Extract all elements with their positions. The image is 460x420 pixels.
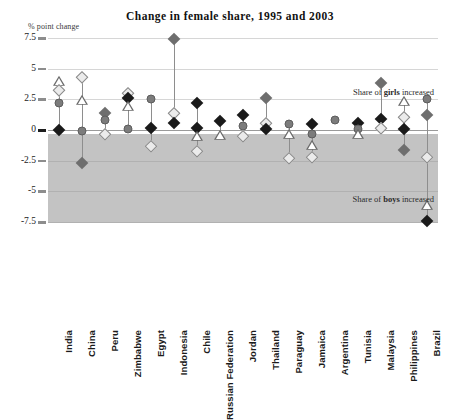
marker-gray-circle xyxy=(124,124,133,133)
marker-dark-diamond xyxy=(237,109,250,122)
triangle-fill xyxy=(193,133,201,140)
y-tick-label: 0 xyxy=(2,125,36,135)
y-tick-label: 7.5 xyxy=(2,33,36,43)
y-tick-mark xyxy=(38,190,46,193)
annotation-girls-suffix: increased xyxy=(400,87,434,97)
marker-gray-circle xyxy=(284,119,293,128)
marker-gray-circle xyxy=(147,95,156,104)
triangle-fill xyxy=(124,103,132,110)
y-tick-label: 5 xyxy=(2,64,36,74)
y-axis-caption: % point change xyxy=(28,22,79,31)
negative-shaded-region xyxy=(48,134,438,222)
triangle-fill xyxy=(308,142,316,149)
plot-area: Share of girls increased Share of boys i… xyxy=(48,38,438,222)
triangle-fill xyxy=(400,98,408,105)
y-tick-mark xyxy=(38,129,46,132)
marker-gray-diamond xyxy=(168,33,181,46)
marker-dark-diamond xyxy=(168,116,181,129)
x-axis-label-paraguay: Paraguay xyxy=(293,330,304,374)
marker-light-diamond xyxy=(398,110,410,122)
x-axis-label-peru: Peru xyxy=(109,330,120,352)
gridline-neg7-5 xyxy=(48,222,438,223)
y-tick-mark xyxy=(38,221,46,224)
x-axis-label-tunisia: Tunisia xyxy=(362,330,373,363)
gridline-neg2-5 xyxy=(48,161,438,162)
x-axis-label-malaysia: Malaysia xyxy=(385,330,396,370)
x-axis-labels: IndiaChinaPeruZimbabweEgyptIndonesiaChil… xyxy=(48,226,438,334)
marker-gray-diamond xyxy=(420,109,433,122)
marker-light-diamond xyxy=(76,71,88,83)
triangle-fill xyxy=(285,131,293,138)
y-tick-mark xyxy=(38,160,46,163)
page-title: Change in female share, 1995 and 2003 xyxy=(0,10,460,22)
x-axis-label-indonesia: Indonesia xyxy=(178,330,189,375)
x-axis-label-philippines: Philippines xyxy=(408,330,419,382)
annotation-boys-prefix: Share of xyxy=(353,194,384,204)
x-axis-label-argentina: Argentina xyxy=(339,330,350,375)
y-tick-mark xyxy=(38,37,46,40)
connector-line xyxy=(82,77,83,163)
gridline-2neg5 xyxy=(48,99,438,100)
x-axis-label-jordan: Jordan xyxy=(247,330,258,362)
marker-gray-circle xyxy=(330,116,339,125)
annotation-boys-suffix: increased xyxy=(400,194,434,204)
x-axis-label-egypt: Egypt xyxy=(155,330,166,357)
triangle-fill xyxy=(78,97,86,104)
x-axis-label-thailand: Thailand xyxy=(270,330,281,370)
marker-gray-circle xyxy=(101,116,110,125)
annotation-boys-increased: Share of boys increased xyxy=(353,194,434,204)
gridline-neg5 xyxy=(48,191,438,192)
y-tick-mark xyxy=(38,98,46,101)
annotation-girls-bold: girls xyxy=(384,87,400,97)
marker-gray-circle xyxy=(55,99,64,108)
x-axis-label-zimbabwe: Zimbabwe xyxy=(132,330,143,377)
gridline-7neg5 xyxy=(48,38,438,39)
annotation-boys-bold: boys xyxy=(383,194,400,204)
triangle-fill xyxy=(354,131,362,138)
gridline-5 xyxy=(48,69,438,70)
x-axis-label-russian-federation: Russian Federation xyxy=(224,330,235,420)
x-axis-label-brazil: Brazil xyxy=(431,330,442,356)
marker-gray-circle xyxy=(307,129,316,138)
marker-gray-circle xyxy=(78,127,87,136)
annotation-girls-increased: Share of girls increased xyxy=(353,87,434,97)
marker-gray-diamond xyxy=(260,92,273,105)
annotation-girls-prefix: Share of xyxy=(353,87,384,97)
x-axis-label-china: China xyxy=(86,330,97,357)
marker-light-diamond xyxy=(375,122,387,134)
x-axis-label-india: India xyxy=(63,330,74,353)
y-tick-label: -5 xyxy=(2,186,36,196)
y-tick-label: 2.5 xyxy=(2,94,36,104)
triangle-fill xyxy=(216,132,224,139)
y-tick-mark xyxy=(38,68,46,71)
x-axis-label-jamaica: Jamaica xyxy=(316,330,327,368)
y-tick-label: -2.5 xyxy=(2,156,36,166)
marker-dark-diamond xyxy=(145,121,158,134)
marker-dark-diamond xyxy=(214,115,227,128)
x-axis-label-chile: Chile xyxy=(201,330,212,354)
y-tick-label: -7.5 xyxy=(2,217,36,227)
